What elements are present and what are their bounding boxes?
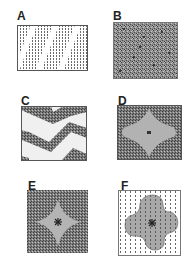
panel-b: [113, 22, 178, 79]
panel-a: [17, 25, 88, 71]
panel-b-label: B: [113, 10, 122, 22]
panel-a-label: A: [17, 10, 26, 22]
panel-f: [118, 190, 181, 256]
panel-e: [27, 190, 88, 253]
panel-d: [117, 105, 182, 160]
panel-c: [21, 106, 87, 161]
